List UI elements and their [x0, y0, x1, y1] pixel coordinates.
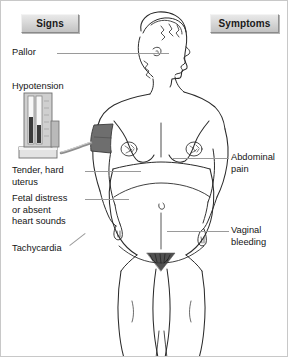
label-tachycardia: Tachycardia: [12, 243, 84, 255]
label-vaginal-bleeding: Vaginal bleeding: [231, 225, 287, 248]
leader-line-vaginal: [167, 231, 229, 232]
label-tender-hard-uterus: Tender, hard uterus: [12, 165, 84, 188]
diagram-canvas: Signs Symptoms: [0, 0, 288, 357]
label-fetal-distress: Fetal distress or absent heart sounds: [12, 193, 84, 228]
leader-line-pallor: [57, 53, 169, 54]
leader-line-abdominal: [173, 158, 229, 159]
leader-line-fetal: [85, 199, 129, 200]
label-abdominal-pain: Abdominal pain: [231, 152, 287, 175]
leader-line-uterus: [85, 171, 141, 172]
label-pallor: Pallor: [12, 47, 72, 59]
label-hypotension: Hypotension: [12, 81, 92, 93]
